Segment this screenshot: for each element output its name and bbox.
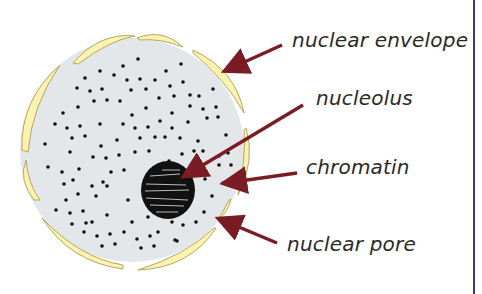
arrow-nuclear-envelope [240, 45, 282, 64]
label-nuclear-pore: nuclear pore [287, 232, 416, 256]
nucleolus [141, 161, 195, 219]
border-line [473, 0, 475, 294]
label-nucleolus: nucleolus [316, 86, 413, 110]
label-nuclear-envelope: nuclear envelope [292, 28, 468, 52]
label-chromatin: chromatin [306, 155, 410, 179]
arrow-nuclear-pore [234, 225, 277, 243]
arrow-chromatin [240, 173, 297, 181]
